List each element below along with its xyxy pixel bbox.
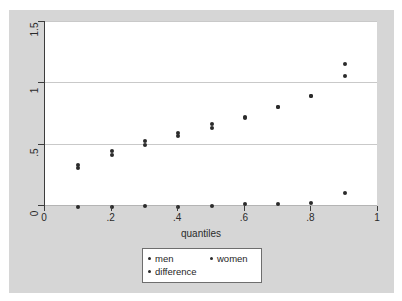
x-axis-tick-label: .2 (106, 212, 114, 223)
x-axis-tick-label: 1 (374, 212, 380, 223)
legend-marker-icon (210, 257, 213, 260)
data-point-difference (210, 204, 214, 208)
x-axis-title: quantiles (0, 228, 402, 239)
data-point-women (276, 105, 280, 109)
data-point-women (143, 143, 147, 147)
data-point-women (110, 153, 114, 157)
data-point-women (343, 74, 347, 78)
legend-label-men: men (155, 253, 173, 264)
x-axis-tick-label: .4 (173, 212, 181, 223)
plot-area (44, 21, 377, 205)
x-axis-tick (244, 206, 245, 211)
legend-label-difference: difference (155, 266, 197, 277)
y-axis-tick-label: 1.5 (29, 20, 40, 40)
gridline-y (45, 144, 377, 145)
x-axis-tick-label: .8 (306, 212, 314, 223)
legend-marker-icon (148, 270, 151, 273)
legend-marker-icon (148, 257, 151, 260)
y-axis-tick (38, 21, 44, 22)
legend-entry-difference[interactable]: difference (148, 266, 210, 277)
data-point-women (243, 116, 247, 120)
y-axis-tick-label: 0 (29, 204, 40, 224)
legend-label-women: women (217, 253, 248, 264)
x-axis-tick (177, 206, 178, 211)
gridline-y (45, 21, 377, 22)
y-axis-tick-label: 1 (29, 81, 40, 101)
y-axis-tick-label: .5 (29, 142, 40, 162)
data-point-women (210, 126, 214, 130)
x-axis-tick (44, 206, 45, 211)
y-axis-labels: 0.511.5 (0, 0, 36, 301)
data-point-men (343, 62, 347, 66)
figure: 0.511.5 quantiles men women difference 0… (0, 0, 402, 301)
legend-row: men women (148, 252, 256, 265)
legend-entry-men[interactable]: men (148, 253, 210, 264)
data-point-women (176, 134, 180, 138)
x-axis-tick (377, 206, 378, 211)
x-axis-tick (111, 206, 112, 211)
y-axis-tick (38, 144, 44, 145)
data-point-difference (309, 201, 313, 205)
x-axis-tick-label: 0 (41, 212, 47, 223)
y-axis-tick (38, 82, 44, 83)
x-axis-tick-label: .6 (240, 212, 248, 223)
x-axis-tick (310, 206, 311, 211)
legend-row: difference (148, 265, 256, 278)
gridline-y (45, 82, 377, 83)
chart-legend: men women difference (142, 248, 262, 283)
data-point-women (309, 94, 313, 98)
legend-entry-women[interactable]: women (210, 253, 248, 264)
data-point-women (76, 166, 80, 170)
data-point-difference (343, 191, 347, 195)
